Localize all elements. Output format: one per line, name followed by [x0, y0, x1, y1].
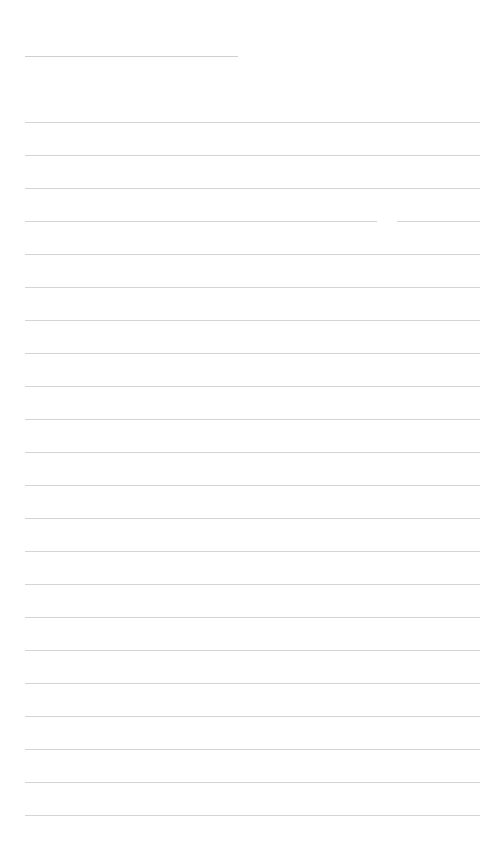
line-gap: [377, 220, 397, 223]
writing-line: [25, 518, 480, 519]
writing-line: [25, 485, 480, 486]
title-line: [25, 56, 238, 57]
writing-line: [25, 683, 480, 684]
writing-line: [25, 782, 480, 783]
writing-line: [25, 188, 480, 189]
writing-line: [25, 815, 480, 816]
writing-line: [25, 254, 480, 255]
writing-line: [25, 320, 480, 321]
writing-line: [25, 617, 480, 618]
writing-line: [25, 551, 480, 552]
writing-line: [25, 122, 480, 123]
writing-line: [25, 650, 480, 651]
writing-line: [25, 353, 480, 354]
writing-line: [25, 749, 480, 750]
writing-line: [25, 386, 480, 387]
writing-line: [25, 716, 480, 717]
writing-line: [25, 155, 480, 156]
writing-line: [25, 584, 480, 585]
writing-line: [25, 452, 480, 453]
writing-line: [25, 419, 480, 420]
writing-line: [25, 221, 480, 222]
writing-line: [25, 287, 480, 288]
